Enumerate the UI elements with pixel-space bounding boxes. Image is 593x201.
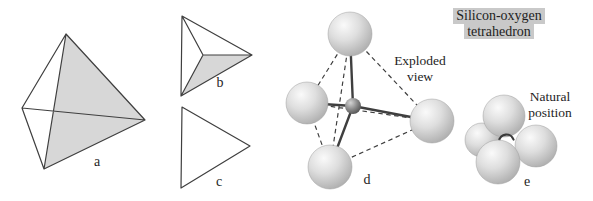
tetrahedron-a (22, 34, 145, 169)
tetrahedron-a-shaded-face (44, 34, 145, 169)
silicon-sphere (345, 98, 361, 114)
label-e: e (520, 173, 534, 190)
cluster-sphere-right (515, 125, 557, 167)
exploded-view-caption: Exploded view (385, 53, 455, 85)
natural-position-caption-line1: Natural (518, 89, 582, 105)
cluster-sphere-front (476, 140, 520, 184)
label-b: b (213, 74, 227, 91)
label-d: d (360, 171, 374, 188)
exploded-view (286, 12, 454, 189)
figure-title: Silicon-oxygen tetrahedron (440, 8, 558, 39)
oxygen-sphere-bottom (308, 145, 352, 189)
figure-canvas: Silicon-oxygen tetrahedron Exploded view… (0, 0, 593, 201)
natural-position-caption: Natural position (518, 89, 582, 121)
label-a: a (90, 153, 104, 170)
exploded-view-caption-line2: view (385, 69, 455, 85)
figure-title-line2: tetrahedron (464, 24, 534, 40)
exploded-view-caption-line1: Exploded (385, 53, 455, 69)
oxygen-sphere-top (328, 12, 372, 56)
figure-title-line1: Silicon-oxygen (453, 8, 545, 24)
oxygen-sphere-left (286, 82, 328, 124)
oxygen-sphere-right (410, 99, 454, 143)
label-c: c (212, 173, 226, 190)
natural-position-caption-line2: position (518, 105, 582, 121)
